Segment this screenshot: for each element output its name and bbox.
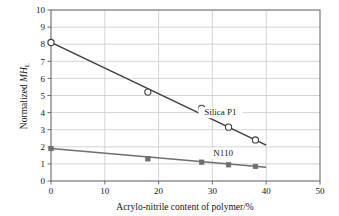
chart-container: 01020304050 012345678910 Silica P1N110 A… (0, 0, 339, 216)
series-label-n110: N110 (213, 148, 233, 158)
y-tick-label: 2 (41, 142, 46, 152)
series-label-silica-p1: Silica P1 (204, 107, 236, 117)
y-tick-label: 6 (41, 74, 46, 84)
y-tick-label: 10 (36, 5, 46, 15)
data-point (145, 89, 151, 95)
data-point (226, 162, 231, 167)
data-point (252, 137, 258, 143)
x-tick-label: 50 (316, 186, 326, 196)
y-tick-label: 4 (41, 108, 46, 118)
x-tick-label: 20 (154, 186, 164, 196)
y-tick-label: 5 (41, 91, 46, 101)
y-axis-label: Normalized MHL (19, 63, 31, 129)
data-point (49, 146, 54, 151)
y-tick-label: 0 (41, 176, 46, 186)
y-axis-label-main: Normalized (19, 82, 29, 129)
x-axis-label: Acrylo-nitrile content of polymer/% (116, 202, 254, 212)
data-point (253, 164, 258, 169)
data-point (225, 124, 231, 130)
data-point (48, 39, 54, 45)
data-point (199, 160, 204, 165)
x-tick-label: 0 (49, 186, 54, 196)
y-tick-label: 3 (41, 125, 46, 135)
y-axis-label-subscript: L (23, 63, 31, 67)
data-point (146, 156, 151, 161)
x-tick-label: 10 (100, 186, 110, 196)
y-axis-label-symbol: MH (19, 66, 29, 83)
y-tick-label: 1 (41, 159, 46, 169)
x-tick-label: 30 (208, 186, 218, 196)
y-tick-label: 8 (41, 39, 46, 49)
x-tick-label: 40 (262, 186, 272, 196)
svg-text:Normalized MHL: Normalized MHL (19, 63, 31, 129)
y-tick-label: 7 (41, 57, 46, 67)
normalized-mhl-vs-acrylonitrile-chart: 01020304050 012345678910 Silica P1N110 A… (0, 0, 339, 216)
y-tick-label: 9 (41, 22, 46, 32)
